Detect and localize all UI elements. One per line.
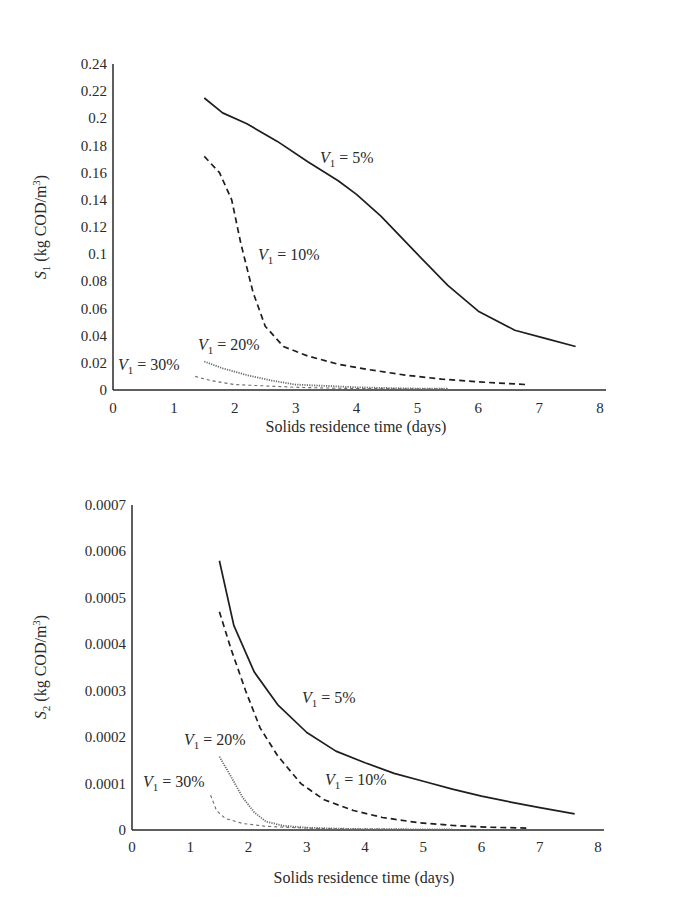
y-tick-label: 0.0002 — [85, 729, 126, 745]
series-line — [219, 757, 452, 830]
chart-s2-vs-srt: 00.00010.00020.00030.00040.00050.00060.0… — [0, 460, 676, 920]
y-tick-label: 0.02 — [81, 355, 107, 371]
y-tick-label: 0.12 — [81, 219, 107, 235]
x-tick-label: 5 — [420, 839, 428, 855]
x-axis-title: Solids residence time (days) — [266, 418, 447, 436]
y-axis-title: S1 (kg COD/m3) — [30, 175, 52, 279]
curve-annotations: V1 = 5%V1 = 10%V1 = 20%V1 = 30% — [118, 149, 374, 376]
chart-s1-svg: 00.020.040.060.080.10.120.140.160.180.20… — [0, 0, 676, 460]
y-tick-label: 0.0003 — [85, 683, 126, 699]
x-axis-title: Solids residence time (days) — [274, 869, 455, 887]
y-tick-label: 0.0001 — [85, 776, 126, 792]
series-lines — [211, 561, 575, 830]
y-tick-label: 0.0007 — [85, 497, 127, 513]
y-tick-label: 0.1 — [88, 246, 107, 262]
series-line — [195, 376, 448, 389]
chart-s2-svg: 00.00010.00020.00030.00040.00050.00060.0… — [0, 460, 676, 920]
y-tick-label: 0.04 — [81, 328, 108, 344]
x-tick-label: 6 — [475, 400, 483, 416]
x-tick-label: 0 — [128, 839, 136, 855]
y-axis: 00.00010.00020.00030.00040.00050.00060.0… — [85, 497, 132, 838]
x-tick-label: 7 — [535, 400, 543, 416]
y-tick-label: 0.0006 — [85, 543, 127, 559]
curve-label: V1 = 5% — [320, 149, 374, 169]
x-tick-label: 0 — [109, 400, 117, 416]
y-tick-label: 0.24 — [81, 56, 108, 72]
x-tick-label: 1 — [170, 400, 178, 416]
y-tick-label: 0.2 — [88, 110, 107, 126]
curve-label: V1 = 10% — [325, 771, 387, 791]
curve-label: V1 = 5% — [302, 689, 356, 709]
y-tick-label: 0.0004 — [85, 636, 127, 652]
series-line — [219, 561, 574, 814]
y-tick-label: 0.14 — [81, 192, 108, 208]
x-tick-label: 6 — [478, 839, 486, 855]
curve-annotations: V1 = 5%V1 = 10%V1 = 20%V1 = 30% — [143, 689, 387, 793]
y-tick-label: 0.0005 — [85, 590, 126, 606]
x-tick-label: 1 — [187, 839, 195, 855]
y-tick-label: 0.06 — [81, 301, 108, 317]
chart-s1-vs-srt: 00.020.040.060.080.10.120.140.160.180.20… — [0, 0, 676, 460]
curve-label: V1 = 30% — [143, 773, 205, 793]
y-tick-label: 0.16 — [81, 165, 108, 181]
y-axis: 00.020.040.060.080.10.120.140.160.180.20… — [81, 56, 113, 398]
y-tick-label: 0 — [119, 822, 127, 838]
x-tick-label: 4 — [361, 839, 369, 855]
x-tick-label: 2 — [245, 839, 253, 855]
x-tick-label: 3 — [303, 839, 311, 855]
x-axis: 012345678 — [109, 390, 606, 416]
y-tick-label: 0.22 — [81, 83, 107, 99]
y-tick-label: 0.18 — [81, 138, 107, 154]
x-tick-label: 2 — [231, 400, 239, 416]
x-tick-label: 3 — [292, 400, 300, 416]
x-tick-label: 8 — [594, 839, 602, 855]
x-axis: 012345678 — [128, 830, 604, 855]
y-tick-label: 0 — [100, 382, 108, 398]
x-tick-label: 5 — [414, 400, 422, 416]
x-tick-label: 4 — [353, 400, 361, 416]
y-tick-label: 0.08 — [81, 273, 107, 289]
x-tick-label: 7 — [536, 839, 544, 855]
x-tick-label: 8 — [596, 400, 604, 416]
y-axis-title: S2 (kg COD/m3) — [30, 615, 52, 719]
curve-label: V1 = 10% — [258, 246, 320, 266]
curve-label: V1 = 20% — [198, 336, 260, 356]
curve-label: V1 = 20% — [184, 731, 246, 751]
curve-label: V1 = 30% — [118, 356, 180, 376]
